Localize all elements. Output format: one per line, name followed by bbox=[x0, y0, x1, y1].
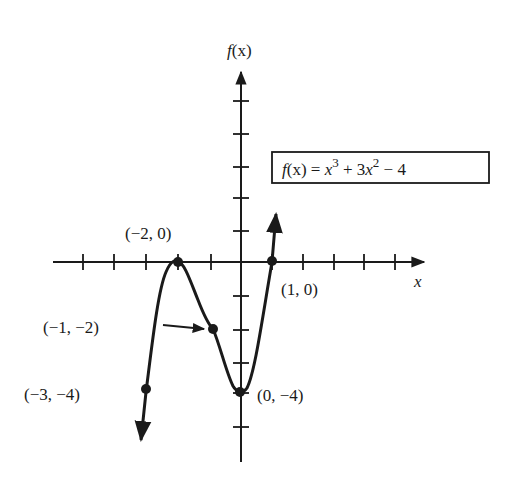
y-axis-label: f(x) bbox=[227, 41, 252, 60]
label-point-m3-m4: (−3, −4) bbox=[24, 385, 80, 404]
label-point-1-0: (1, 0) bbox=[281, 280, 318, 299]
label-point-m1-m2: (−1, −2) bbox=[43, 318, 99, 337]
label-point-0-m4: (0, −4) bbox=[257, 386, 303, 405]
label-point-m2-0: (−2, 0) bbox=[125, 224, 171, 243]
x-axis-label: x bbox=[413, 272, 422, 291]
point-m2-0 bbox=[173, 257, 183, 267]
svg-text:f(x) = x3 + 3x2 − 4: f(x) = x3 + 3x2 − 4 bbox=[282, 155, 406, 179]
pointer-arrow bbox=[163, 325, 204, 329]
function-graph: f(x) x f(x) = x3 + 3x2 − 4 (−2, 0) (1, 0… bbox=[0, 0, 516, 480]
point-0-m4 bbox=[235, 387, 245, 397]
y-axis bbox=[233, 72, 249, 462]
x-axis bbox=[53, 254, 424, 270]
point-m3-m4 bbox=[141, 384, 151, 394]
point-m1-m2 bbox=[208, 324, 218, 334]
point-1-0 bbox=[267, 256, 277, 266]
equation-box: f(x) = x3 + 3x2 − 4 bbox=[272, 152, 489, 183]
data-points bbox=[141, 256, 277, 397]
